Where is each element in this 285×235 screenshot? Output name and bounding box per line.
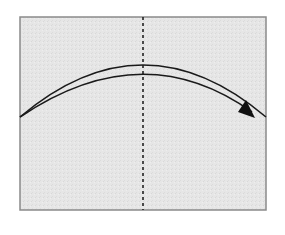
origami-diagram: Valley fold: fold the left half over to … <box>0 0 285 235</box>
